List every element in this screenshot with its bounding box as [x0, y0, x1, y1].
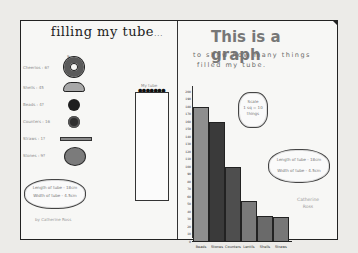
poster: filling my tube... 9 Cheerios : 6? Shell… — [20, 20, 338, 240]
ring-cereal-icon — [64, 57, 84, 77]
y-tick-label: 110 — [179, 157, 191, 161]
counter-icon — [68, 116, 80, 128]
item-label: Cheerios : 6? — [23, 65, 49, 70]
author-line-2: Ross — [297, 203, 319, 210]
bar-straws — [273, 217, 289, 242]
item-straws: Straws : 1? — [21, 132, 101, 146]
x-tick-label: Stones — [209, 245, 225, 249]
x-tick-label: Straws — [273, 245, 289, 249]
item-label: Stones : 9? — [23, 153, 45, 158]
y-tick-label: 130 — [179, 142, 191, 146]
left-title-text: filling my tube — [51, 24, 154, 39]
bar-lentils — [241, 201, 257, 242]
tube-outline — [135, 92, 169, 201]
panel-divider — [177, 21, 178, 239]
bar-chart: 0102030405060708090100110120130140150160… — [179, 84, 291, 242]
y-tick-label: 170 — [179, 112, 191, 116]
shell-icon — [63, 82, 85, 92]
left-author: by Catherine Ross — [35, 217, 71, 222]
item-cheerios: Cheerios : 6? — [21, 61, 101, 75]
y-tick-label: 100 — [179, 165, 191, 169]
bar-shells — [257, 216, 273, 242]
y-tick-label: 70 — [179, 187, 191, 191]
bar-stones — [209, 122, 225, 242]
bar-counters — [225, 167, 241, 242]
y-tick-label: 160 — [179, 120, 191, 124]
subtitle-line-1: to show how many things — [193, 50, 333, 60]
right-author: Catherine Ross — [297, 196, 319, 210]
y-tick-label: 140 — [179, 135, 191, 139]
left-title: filling my tube... — [47, 24, 167, 39]
y-tick-label: 80 — [179, 180, 191, 184]
cloud-line: Width of tube - 4.5cm — [25, 193, 85, 198]
y-tick-label: 150 — [179, 127, 191, 131]
cloud-line: Length of tube - 18cm — [25, 185, 85, 190]
subtitle-line-2: filled my tube. — [193, 60, 333, 70]
y-tick-label: 120 — [179, 150, 191, 154]
y-tick-label: 0 — [179, 240, 191, 244]
y-tick-label: 10 — [179, 232, 191, 236]
item-label: Beads : 4? — [23, 102, 44, 107]
item-counters: Counters : 16 — [21, 115, 101, 129]
poster-corner — [332, 20, 338, 26]
y-tick-label: 180 — [179, 105, 191, 109]
right-subtitle: to show how many things filled my tube. — [193, 50, 333, 70]
y-tick-label: 190 — [179, 97, 191, 101]
x-tick-label: Lentils — [241, 245, 257, 249]
item-stones: Stones : 9? — [21, 149, 101, 163]
author-line-1: Catherine — [297, 196, 319, 203]
y-tick-label: 60 — [179, 195, 191, 199]
x-tick-label: Beads — [193, 245, 209, 249]
y-tick-label: 90 — [179, 172, 191, 176]
item-label: Counters : 16 — [23, 119, 50, 124]
item-label: Shells : 45 — [23, 85, 44, 90]
y-tick-label: 20 — [179, 225, 191, 229]
left-measurement-cloud: Length of tube - 18cm Width of tube - 4.… — [24, 179, 86, 209]
stone-icon — [64, 147, 86, 166]
bar-beads — [193, 107, 209, 242]
item-label: Straws : 1? — [23, 136, 45, 141]
x-tick-label: Counters — [225, 245, 241, 249]
bead-icon — [68, 99, 80, 111]
y-tick-label: 200 — [179, 90, 191, 94]
item-shells: Shells : 45 — [21, 81, 101, 95]
item-beads: Beads : 4? — [21, 98, 101, 112]
straw-icon — [60, 137, 92, 141]
y-tick-label: 30 — [179, 217, 191, 221]
x-tick-label: Shells — [257, 245, 273, 249]
y-tick-label: 50 — [179, 202, 191, 206]
left-title-suffix: ... — [154, 29, 163, 38]
y-tick-label: 40 — [179, 210, 191, 214]
